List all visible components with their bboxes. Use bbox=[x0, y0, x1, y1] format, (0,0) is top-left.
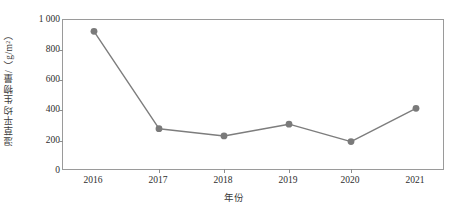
y-tick-label-0: 0 bbox=[24, 166, 60, 176]
y-tick-label-600: 600 bbox=[24, 75, 60, 85]
x-axis-title-text: 年份 bbox=[224, 193, 245, 203]
x-axis-title: 年份 bbox=[0, 190, 458, 204]
y-tick-label-200: 200 bbox=[24, 136, 60, 146]
x-tick-label-2020: 2020 bbox=[320, 176, 380, 186]
x-tick-label-2016: 2016 bbox=[63, 176, 123, 186]
data-point-2018 bbox=[221, 133, 228, 140]
data-point-2021 bbox=[413, 105, 420, 112]
plot-area bbox=[62, 19, 444, 170]
series-markers bbox=[91, 28, 420, 145]
data-point-2020 bbox=[348, 138, 355, 145]
data-point-2016 bbox=[91, 28, 98, 35]
data-point-2019 bbox=[286, 121, 293, 128]
data-series-line bbox=[63, 20, 445, 171]
x-tick-label-2018: 2018 bbox=[193, 176, 253, 186]
series-polyline bbox=[94, 31, 416, 141]
y-axis-title-text: 湿草平均生物量/（g/m²） bbox=[5, 30, 15, 146]
x-tick-label-2021: 2021 bbox=[385, 176, 445, 186]
y-axis-tick-labels: 1 000 800 600 400 200 0 bbox=[20, 0, 60, 213]
y-tick-label-1000: 1 000 bbox=[24, 15, 60, 25]
chart-figure: 湿草平均生物量/（g/m²） 1 000 800 600 400 200 0 2… bbox=[0, 0, 458, 213]
y-axis-title: 湿草平均生物量/（g/m²） bbox=[0, 0, 20, 175]
data-point-2017 bbox=[156, 125, 163, 132]
x-tick-label-2019: 2019 bbox=[258, 176, 318, 186]
y-tick-label-400: 400 bbox=[24, 105, 60, 115]
y-tick-label-800: 800 bbox=[24, 45, 60, 55]
x-tick-label-2017: 2017 bbox=[128, 176, 188, 186]
